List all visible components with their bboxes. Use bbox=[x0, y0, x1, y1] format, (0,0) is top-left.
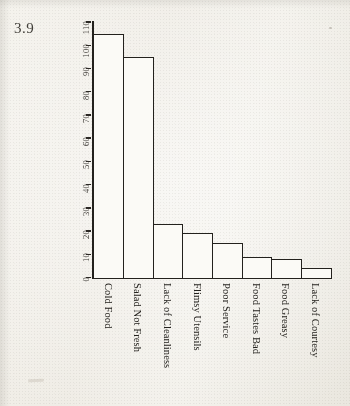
y-axis-tick-label: 10 bbox=[81, 253, 91, 262]
bar bbox=[241, 257, 272, 279]
y-axis-tick-label: 70 bbox=[81, 114, 91, 123]
y-axis-tick-label: 0 bbox=[81, 277, 91, 282]
figure-container: 3.9 1101009080706050403020100 Cold FoodS… bbox=[0, 0, 350, 406]
x-axis-category-label: Cold Food bbox=[103, 283, 114, 329]
y-axis-tick-label: 90 bbox=[81, 67, 91, 76]
y-axis-tick-label: 20 bbox=[81, 230, 91, 239]
y-axis-tick-label: 110 bbox=[81, 21, 91, 34]
bar bbox=[212, 243, 243, 279]
bar bbox=[271, 259, 302, 279]
y-axis-tick-label: 30 bbox=[81, 207, 91, 216]
y-axis-tick-label: 60 bbox=[81, 137, 91, 146]
y-axis-tick-label: 50 bbox=[81, 160, 91, 169]
bar bbox=[152, 224, 183, 279]
x-axis-category-label: Flimsy Utensils bbox=[192, 283, 203, 351]
x-axis-category-label: Food Greasy bbox=[280, 283, 291, 338]
x-axis-category-label: Lack of Cleanliness bbox=[162, 283, 173, 368]
x-axis-category-label: Food Tastes Bad bbox=[251, 283, 262, 354]
y-axis-tick-label: 100 bbox=[81, 44, 91, 58]
y-axis-tick-label: 40 bbox=[81, 184, 91, 193]
x-axis-category-label: Lack of Courtesy bbox=[310, 283, 321, 358]
bar bbox=[300, 268, 331, 279]
pareto-chart: 1101009080706050403020100 Cold FoodSalad… bbox=[0, 0, 350, 406]
bar bbox=[182, 233, 213, 279]
bar bbox=[123, 57, 154, 279]
x-axis-category-label: Poor Service bbox=[221, 283, 232, 338]
y-axis-tick-label: 80 bbox=[81, 91, 91, 100]
bar bbox=[93, 34, 124, 279]
x-axis-category-label: Salad Not Fresh bbox=[132, 283, 143, 352]
